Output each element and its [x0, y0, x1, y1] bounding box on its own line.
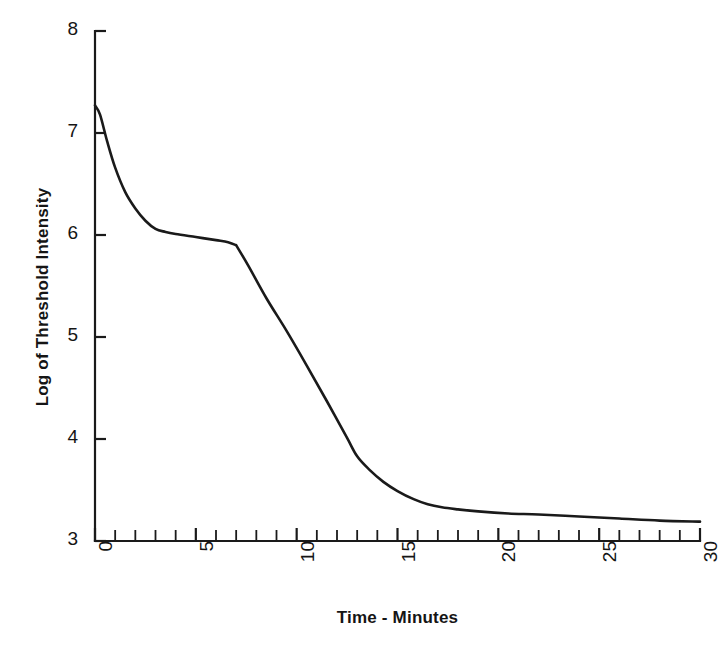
y-tick-label: 6	[52, 222, 78, 244]
x-tick-label: 15	[398, 541, 420, 571]
x-axis-title: Time - Minutes	[95, 608, 700, 628]
x-tick-label: 25	[599, 541, 621, 571]
y-tick-label: 5	[52, 324, 78, 346]
x-tick-label: 0	[95, 541, 117, 571]
x-tick-label: 30	[700, 541, 722, 571]
y-tick-label: 3	[52, 528, 78, 550]
axes	[95, 31, 700, 541]
x-tick-label: 20	[498, 541, 520, 571]
y-tick-label: 4	[52, 426, 78, 448]
y-tick-label: 8	[52, 18, 78, 40]
x-tick-marks-major	[95, 528, 700, 541]
x-tick-label: 5	[196, 541, 218, 571]
y-tick-label: 7	[52, 120, 78, 142]
x-tick-label: 10	[297, 541, 319, 571]
dark-adaptation-chart: Log of Threshold Intensity Time - Minute…	[0, 0, 725, 649]
threshold-intensity-curve	[95, 105, 700, 521]
y-axis-title: Log of Threshold Intensity	[33, 157, 53, 437]
